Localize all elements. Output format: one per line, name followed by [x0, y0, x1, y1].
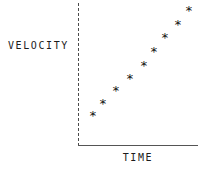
data-point-marker: * — [150, 45, 159, 54]
data-point-marker: * — [185, 4, 194, 13]
asterisk-icon: * — [150, 47, 159, 56]
asterisk-icon: * — [99, 99, 108, 108]
asterisk-icon: * — [126, 74, 135, 83]
data-point-marker: * — [112, 84, 121, 93]
asterisk-icon: * — [89, 111, 98, 120]
data-point-marker: * — [89, 109, 98, 118]
scatter-plot-figure: VELOCITY TIME ********* — [0, 0, 204, 169]
data-point-marker: * — [174, 18, 183, 27]
asterisk-icon: * — [140, 61, 149, 70]
data-point-marker: * — [126, 72, 135, 81]
asterisk-icon: * — [161, 33, 170, 42]
asterisk-icon: * — [174, 20, 183, 29]
asterisk-icon: * — [185, 6, 194, 15]
data-point-marker: * — [161, 31, 170, 40]
data-point-marker: * — [99, 97, 108, 106]
data-point-marker: * — [140, 59, 149, 68]
plot-area: ********* — [0, 0, 204, 169]
asterisk-icon: * — [112, 86, 121, 95]
